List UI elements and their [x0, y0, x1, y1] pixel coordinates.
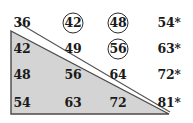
grid-cell: 49: [65, 43, 82, 56]
cell-value: 54: [157, 15, 174, 30]
cell-value: 56: [65, 67, 82, 82]
cell-value: 56: [110, 43, 127, 56]
grid-cell: 63: [65, 97, 82, 110]
cell-value: 36: [14, 15, 31, 30]
star-marker: *: [174, 42, 180, 56]
grid-cell-starred: 81*: [157, 97, 180, 110]
cell-value: 72: [157, 67, 174, 82]
cell-value: 48: [14, 67, 31, 82]
grid-cell-circled: 56: [108, 39, 129, 60]
grid-cell: 72: [110, 97, 127, 110]
cell-value: 48: [110, 17, 127, 30]
cell-value: 81: [157, 95, 174, 110]
grid-cell-starred: 63*: [157, 43, 180, 56]
grid-cell: 64: [110, 69, 127, 82]
cell-value: 42: [14, 41, 31, 56]
cell-value: 54: [14, 95, 31, 110]
grid-cell: 36: [14, 17, 31, 30]
grid-cell-starred: 72*: [157, 69, 180, 82]
cell-value: 49: [65, 41, 82, 56]
cell-value: 63: [65, 95, 82, 110]
cell-value: 42: [65, 17, 82, 30]
star-marker: *: [174, 68, 180, 82]
grid-cell: 42: [14, 43, 31, 56]
star-marker: *: [174, 16, 180, 30]
diagram-figure: 36 42 48 54* 42 49 56 63* 48 56 64 72* 5…: [0, 0, 193, 123]
cell-value: 63: [157, 41, 174, 56]
cell-value: 64: [110, 67, 127, 82]
grid-cell: 56: [65, 69, 82, 82]
grid-cell-starred: 54*: [157, 17, 180, 30]
grid-cell: 48: [14, 69, 31, 82]
cell-value: 72: [110, 95, 127, 110]
grid-cell-circled: 42: [63, 13, 84, 34]
grid-cell-circled: 48: [108, 13, 129, 34]
shaded-triangle-shape: [11, 31, 169, 114]
star-marker: *: [174, 96, 180, 110]
grid-cell: 54: [14, 97, 31, 110]
